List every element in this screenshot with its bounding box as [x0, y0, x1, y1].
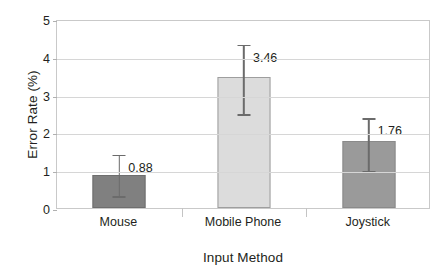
gridline — [57, 134, 429, 135]
bar-slot: 3.46 — [182, 21, 307, 208]
plot-area: 0.883.461.76 012345 — [56, 20, 430, 209]
gridline — [57, 172, 429, 173]
bars-layer: 0.883.461.76 — [57, 21, 429, 208]
bar-slot: 0.88 — [57, 21, 182, 208]
error-bar — [113, 155, 126, 198]
error-bar-stem — [119, 155, 120, 198]
y-tick-mark — [53, 21, 57, 22]
x-tick-label: Mouse — [100, 215, 138, 229]
x-tick-mark — [306, 208, 307, 217]
y-tick-label: 0 — [43, 203, 50, 217]
bar-value-label: 1.76 — [378, 124, 402, 138]
y-tick-label: 1 — [43, 165, 50, 179]
error-bar-cap-top — [113, 155, 126, 157]
error-bar-cap-top — [237, 45, 250, 47]
y-tick-label: 5 — [43, 14, 50, 28]
error-bar-stem — [243, 45, 244, 116]
x-tick-label: Joystick — [345, 215, 389, 229]
y-tick-mark — [53, 210, 57, 211]
gridline — [57, 59, 429, 60]
x-axis-title: Input Method — [56, 250, 430, 265]
y-tick-mark — [53, 97, 57, 98]
y-axis-title: Error Rate (%) — [25, 20, 40, 210]
error-bar-stem — [368, 118, 369, 173]
y-tick-mark — [53, 134, 57, 135]
error-bar-cap-bottom — [113, 196, 126, 198]
y-tick-label: 2 — [43, 127, 50, 141]
error-bar-cap-top — [362, 118, 375, 120]
error-bar — [362, 118, 375, 173]
error-bar-cap-bottom — [237, 114, 250, 116]
y-tick-mark — [53, 172, 57, 173]
x-tick-mark — [182, 208, 183, 217]
bar-chart: Error Rate (%) 0.883.461.76 012345 Mouse… — [0, 0, 442, 280]
y-tick-label: 3 — [43, 90, 50, 104]
y-tick-label: 4 — [43, 52, 50, 66]
x-tick-label: Mobile Phone — [205, 215, 281, 229]
y-tick-mark — [53, 59, 57, 60]
gridline — [57, 97, 429, 98]
error-bar — [237, 45, 250, 116]
bar-slot: 1.76 — [306, 21, 431, 208]
